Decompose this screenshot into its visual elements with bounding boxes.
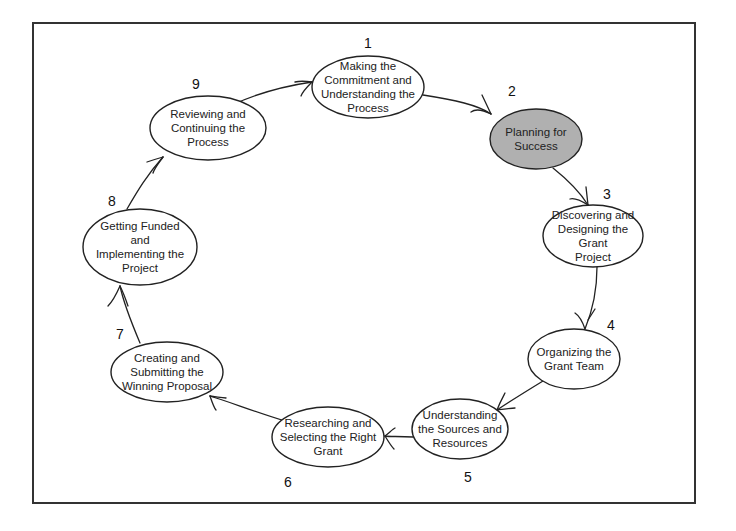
step-number-6: 6 bbox=[284, 475, 292, 489]
step-node-5 bbox=[412, 399, 508, 459]
step-node-9 bbox=[150, 96, 266, 160]
arrow-5-to-6 bbox=[385, 428, 413, 449]
step-number-3: 3 bbox=[603, 187, 611, 201]
arrow-8-to-9 bbox=[127, 157, 163, 209]
arrow-9-to-1 bbox=[232, 81, 312, 105]
step-number-8: 8 bbox=[108, 194, 116, 208]
arrow-7-to-8 bbox=[108, 286, 140, 343]
step-node-6 bbox=[272, 407, 384, 467]
step-number-9: 9 bbox=[192, 77, 200, 91]
step-number-5: 5 bbox=[464, 470, 472, 484]
step-node-7 bbox=[111, 342, 223, 402]
step-node-3 bbox=[543, 205, 643, 267]
arrow-3-to-4 bbox=[575, 267, 597, 329]
step-number-2: 2 bbox=[508, 84, 516, 98]
arrow-2-to-3 bbox=[553, 168, 588, 205]
step-number-1: 1 bbox=[364, 36, 372, 50]
arrow-1-to-2 bbox=[423, 95, 491, 114]
arrow-6-to-7 bbox=[210, 396, 285, 421]
step-number-7: 7 bbox=[116, 327, 124, 341]
step-node-8 bbox=[83, 209, 197, 285]
step-node-1 bbox=[312, 56, 424, 118]
arrow-4-to-5 bbox=[497, 381, 543, 410]
step-node-2 bbox=[490, 109, 582, 169]
cycle-diagram bbox=[0, 0, 736, 531]
step-node-4 bbox=[528, 329, 620, 389]
step-number-4: 4 bbox=[607, 318, 615, 332]
